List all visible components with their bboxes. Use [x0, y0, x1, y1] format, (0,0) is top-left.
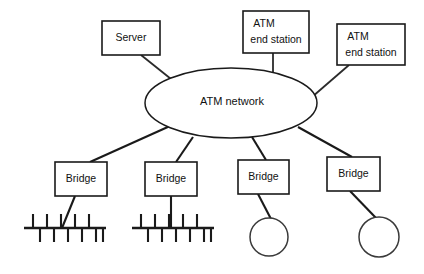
token-ring-1[interactable] [250, 218, 288, 256]
bridge-3-label: Bridge [248, 170, 279, 182]
atm-end-station-1-label-line1: ATM [253, 17, 274, 29]
server-label: Server [116, 31, 147, 43]
node-bridge-2[interactable]: Bridge [145, 162, 197, 196]
node-atm-end-station-1[interactable]: ATM end station [243, 11, 309, 53]
bridge-2-label: Bridge [156, 172, 187, 184]
atm-end-station-2-label-line2: end station [345, 46, 397, 58]
network-diagram-svg: ATM network Server ATM end station ATM e… [0, 0, 424, 274]
node-bridge-3[interactable]: Bridge [238, 160, 289, 194]
atm-network-label: ATM network [200, 95, 264, 107]
link-atm-network-to-bridge-3 [252, 137, 266, 160]
node-bridge-1[interactable]: Bridge [55, 162, 107, 196]
link-bridge-1-to-ethernet-bus-1 [62, 196, 75, 228]
atm-network-cloud[interactable]: ATM network [145, 68, 317, 138]
link-atm-network-to-bridge-2 [176, 137, 193, 162]
node-atm-end-station-2[interactable]: ATM end station [337, 24, 405, 65]
link-atm-end-station-2-to-atm-network [312, 65, 349, 97]
node-server[interactable]: Server [102, 21, 160, 55]
atm-end-station-1-label-line2: end station [250, 33, 302, 45]
link-atm-network-to-bridge-1 [90, 126, 170, 162]
node-bridge-4[interactable]: Bridge [327, 157, 380, 191]
bridge-4-label: Bridge [338, 167, 369, 179]
atm-end-station-2-label-line1: ATM [347, 30, 368, 42]
bridge-1-label: Bridge [66, 172, 97, 184]
token-ring-2[interactable] [359, 217, 399, 257]
token-ring-1-circle [250, 218, 288, 256]
link-bridge-4-to-token-ring-2 [350, 191, 376, 218]
link-atm-network-to-bridge-4 [298, 127, 352, 157]
network-diagram-canvas: ATM network Server ATM end station ATM e… [0, 0, 424, 274]
token-ring-2-circle [359, 217, 399, 257]
ethernet-bus-2[interactable] [132, 214, 214, 242]
link-bridge-3-to-token-ring-1 [258, 194, 271, 219]
